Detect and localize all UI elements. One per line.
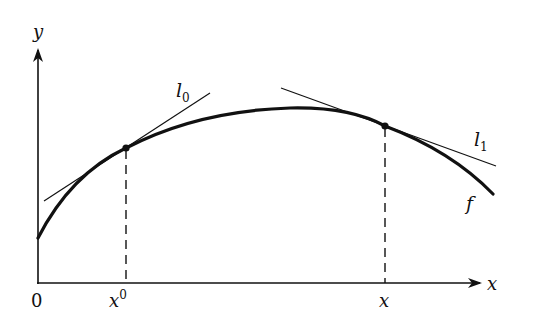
concave-function-diagram: y x 0 x0 x l0 l1 f [0,0,560,331]
tangent-point-x0 [122,144,129,151]
tangent-label-l1: l1 [474,128,488,154]
origin-label: 0 [31,290,42,311]
y-axis-label: y [32,21,44,42]
tangent-point-x [381,122,388,129]
function-curve-f [38,108,493,238]
tick-label-x0: x0 [109,288,127,311]
curve-label-f: f [464,192,476,214]
tick-label-x: x [379,290,389,311]
x-axis-label: x [487,273,497,294]
tangent-label-l0: l0 [176,79,190,105]
